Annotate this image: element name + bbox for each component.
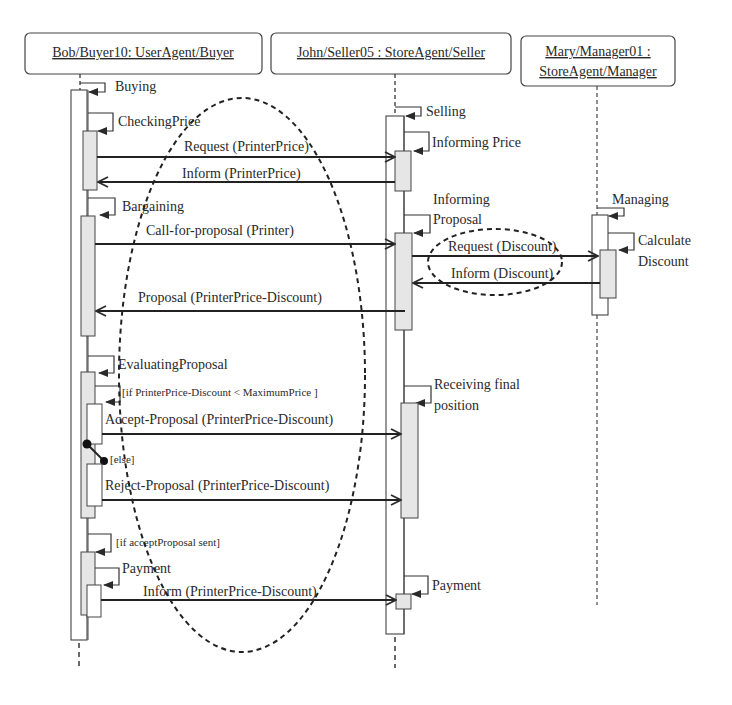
message-inform-printer-price: Inform (PrinterPrice) [98, 166, 395, 182]
self-call-informing-proposal: Informing Proposal [395, 192, 490, 330]
self-call-calculate-discount: Calculate Discount [600, 233, 691, 298]
message-reject-proposal: Reject-Proposal (PrinterPrice-Discount) [102, 478, 401, 500]
state-receiving-final-line1: Receiving final [434, 377, 520, 392]
self-call-bargaining: Bargaining [81, 198, 184, 336]
lifeline-seller-label: John/Seller05 : StoreAgent/Seller [297, 45, 486, 60]
state-checking-price: CheckingPrice [118, 114, 200, 129]
lifeline-header-seller: John/Seller05 : StoreAgent/Seller [271, 33, 511, 74]
state-informing-proposal-line1: Informing [433, 192, 490, 207]
guard-if-accept-sent: [if acceptProposal sent] [116, 536, 220, 548]
message-request-printer-price: Request (PrinterPrice) [97, 139, 395, 157]
activation-buyer-bargaining [81, 216, 95, 336]
lifeline-header-buyer: Bob/Buyer10: UserAgent/Buyer [25, 33, 262, 74]
message-request-discount: Request (Discount) [412, 239, 598, 256]
message-label: Request (PrinterPrice) [184, 139, 309, 155]
self-call-managing: Managing [597, 192, 669, 216]
self-call-receiving-final: Receiving final position [401, 377, 520, 518]
message-call-for-proposal: Call-for-proposal (Printer) [95, 223, 395, 244]
self-call-payment-seller: Payment [396, 576, 481, 609]
self-call-informing-price: Informing Price [395, 132, 521, 191]
message-inform-payment: Inform (PrinterPrice-Discount) [101, 584, 396, 600]
message-label: Proposal (PrinterPrice-Discount) [138, 290, 322, 306]
guard-accept-condition: [if PrinterPrice-Discount < MaximumPrice… [122, 386, 318, 398]
state-receiving-final-line2: position [434, 398, 479, 413]
message-label: Request (Discount) [448, 239, 557, 255]
activation-seller-informing-price [395, 151, 411, 191]
branch-node-start [83, 440, 92, 449]
activation-buyer-checking [83, 131, 97, 190]
state-selling: Selling [426, 104, 466, 119]
self-call-payment-buyer: [if acceptProposal sent] Payment [81, 534, 220, 617]
lifeline-manager-label-line1: Mary/Manager01 : [545, 44, 650, 59]
message-label: Inform (Discount) [451, 266, 554, 282]
message-accept-proposal: Accept-Proposal (PrinterPrice-Discount) [102, 412, 401, 434]
state-payment-seller: Payment [432, 578, 481, 593]
message-label: Accept-Proposal (PrinterPrice-Discount) [105, 412, 334, 428]
self-call-evaluating-proposal: EvaluatingProposal [if PrinterPrice-Disc… [81, 356, 318, 518]
activation-buyer-accept [87, 404, 102, 444]
lifeline-manager [592, 86, 608, 605]
message-label: Call-for-proposal (Printer) [146, 223, 294, 239]
activation-manager-calculate [600, 250, 616, 298]
self-call-buying: Buying [80, 79, 156, 94]
activation-seller-final [401, 403, 418, 518]
activation-buyer-reject [87, 464, 102, 506]
state-evaluating-proposal: EvaluatingProposal [118, 357, 228, 372]
state-payment-buyer: Payment [122, 561, 171, 576]
state-managing: Managing [612, 192, 669, 207]
state-calculate-discount-line2: Discount [638, 254, 689, 269]
activation-seller-payment [396, 594, 411, 609]
state-informing-price: Informing Price [432, 135, 521, 150]
activation-seller-proposal [395, 233, 412, 330]
message-proposal: Proposal (PrinterPrice-Discount) [96, 290, 405, 311]
sequence-diagram: Bob/Buyer10: UserAgent/Buyer John/Seller… [0, 0, 732, 705]
message-label: Reject-Proposal (PrinterPrice-Discount) [105, 478, 330, 494]
state-buying: Buying [115, 79, 156, 94]
state-informing-proposal-line2: Proposal [433, 212, 482, 227]
lifeline-manager-label-line2: StoreAgent/Manager [539, 64, 657, 79]
lifeline-header-manager: Mary/Manager01 : StoreAgent/Manager [521, 36, 675, 86]
state-calculate-discount-line1: Calculate [638, 233, 691, 248]
message-label: Inform (PrinterPrice-Discount) [143, 584, 317, 600]
activation-buyer-inform [87, 585, 101, 617]
guard-else: [else] [110, 453, 134, 465]
lifeline-buyer-label: Bob/Buyer10: UserAgent/Buyer [52, 45, 234, 60]
state-bargaining: Bargaining [122, 199, 184, 214]
self-call-selling: Selling [395, 104, 466, 119]
message-label: Inform (PrinterPrice) [182, 166, 301, 182]
